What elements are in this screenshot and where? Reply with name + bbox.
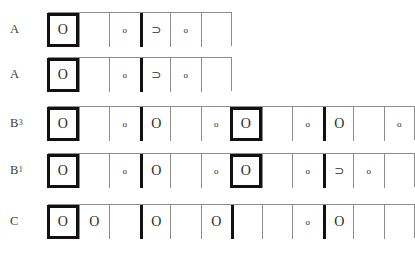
row-label-base: A xyxy=(10,67,19,82)
small-circle-icon: o xyxy=(123,26,128,35)
pattern-cell[interactable] xyxy=(384,154,415,188)
pattern-cell[interactable]: o xyxy=(292,107,323,141)
large-circle-icon: O xyxy=(58,23,68,37)
pattern-cell[interactable]: ⊃ xyxy=(140,13,171,47)
pattern-cell[interactable]: o xyxy=(109,154,140,188)
pattern-cell[interactable]: O xyxy=(201,205,232,239)
row-label-base: C xyxy=(10,214,19,229)
small-circle-icon: o xyxy=(214,167,219,176)
pattern-cell[interactable]: o xyxy=(109,107,140,141)
pattern-cell[interactable]: o xyxy=(109,58,140,92)
small-circle-icon: o xyxy=(184,26,189,35)
pattern-cell[interactable]: o xyxy=(292,205,323,239)
superset-icon: ⊃ xyxy=(334,165,344,177)
large-circle-icon: O xyxy=(151,117,161,131)
small-circle-icon: o xyxy=(306,218,311,227)
small-circle-icon: o xyxy=(214,120,219,129)
pattern-cell[interactable] xyxy=(79,58,110,92)
pattern-cell[interactable] xyxy=(262,205,293,239)
large-circle-icon: O xyxy=(241,117,251,131)
pattern-cell[interactable]: O xyxy=(47,13,79,47)
pattern-cell[interactable]: o xyxy=(292,154,323,188)
pattern-cell[interactable]: O xyxy=(323,107,354,141)
pattern-cell[interactable]: O xyxy=(230,107,262,141)
small-circle-icon: o xyxy=(123,71,128,80)
pattern-cell[interactable] xyxy=(262,107,293,141)
large-circle-icon: O xyxy=(241,164,251,178)
pattern-cell[interactable]: o xyxy=(201,154,232,188)
pattern-cell[interactable] xyxy=(79,13,110,47)
pattern-cell[interactable] xyxy=(170,205,201,239)
row-label-C: C xyxy=(10,204,42,238)
large-circle-icon: O xyxy=(334,117,344,131)
small-circle-icon: o xyxy=(367,167,372,176)
pattern-cell[interactable] xyxy=(231,205,262,239)
row-label-base: B xyxy=(10,163,19,178)
pattern-cell[interactable]: o xyxy=(170,58,201,92)
pattern-cell[interactable]: O xyxy=(47,58,79,92)
pattern-cell[interactable] xyxy=(79,107,110,141)
row-label-A: A xyxy=(10,57,42,91)
pattern-cell[interactable]: O xyxy=(230,154,262,188)
small-circle-icon: o xyxy=(306,167,311,176)
large-circle-icon: O xyxy=(58,164,68,178)
pattern-cell[interactable]: o xyxy=(353,154,384,188)
small-circle-icon: o xyxy=(306,120,311,129)
row-label-base: A xyxy=(10,22,19,37)
pattern-cell[interactable]: O xyxy=(47,107,79,141)
pattern-cell[interactable] xyxy=(201,13,232,47)
pattern-cells: Oo⊃o xyxy=(48,12,232,46)
pattern-cell[interactable]: o xyxy=(170,13,201,47)
pattern-cell[interactable]: O xyxy=(140,205,171,239)
pattern-cell[interactable]: o xyxy=(201,107,232,141)
large-circle-icon: O xyxy=(58,117,68,131)
pattern-cell[interactable]: O xyxy=(323,205,354,239)
small-circle-icon: o xyxy=(123,120,128,129)
pattern-cell[interactable] xyxy=(384,205,415,239)
row-label-B1: B1 xyxy=(10,153,42,187)
pattern-cell[interactable]: O xyxy=(79,205,110,239)
large-circle-icon: O xyxy=(334,215,344,229)
superset-icon: ⊃ xyxy=(151,69,161,81)
pattern-cells: OoOoOo⊃o xyxy=(48,153,415,187)
pattern-cells: OoOoOoOo xyxy=(48,106,415,140)
superset-icon: ⊃ xyxy=(151,24,161,36)
pattern-cell[interactable]: ⊃ xyxy=(323,154,354,188)
pattern-cell[interactable] xyxy=(353,107,384,141)
pattern-cell[interactable]: ⊃ xyxy=(140,58,171,92)
pattern-cell[interactable] xyxy=(170,107,201,141)
large-circle-icon: O xyxy=(89,215,99,229)
large-circle-icon: O xyxy=(58,215,68,229)
pattern-cell[interactable]: O xyxy=(140,154,171,188)
small-circle-icon: o xyxy=(184,71,189,80)
large-circle-icon: O xyxy=(211,215,221,229)
pattern-cell[interactable]: O xyxy=(47,154,79,188)
pattern-cell[interactable] xyxy=(170,154,201,188)
pattern-cells: OOOOoO xyxy=(48,204,415,238)
pattern-cell[interactable]: o xyxy=(109,13,140,47)
large-circle-icon: O xyxy=(151,215,161,229)
row-label-base: B xyxy=(10,116,19,131)
pattern-cell[interactable] xyxy=(353,205,384,239)
pattern-cell[interactable]: o xyxy=(384,107,415,141)
row-label-A: A xyxy=(10,12,42,46)
small-circle-icon: o xyxy=(397,120,402,129)
pattern-cell[interactable]: O xyxy=(140,107,171,141)
pattern-cell[interactable] xyxy=(79,154,110,188)
row-label-B3: B3 xyxy=(10,106,42,140)
pattern-cell[interactable]: O xyxy=(47,205,79,239)
pattern-cell[interactable] xyxy=(109,205,140,239)
rhythm-pattern-sheet: AOo⊃oAOo⊃oB3OoOoOoOoB1OoOoOo⊃oCOOOOoO xyxy=(0,0,415,257)
pattern-cell[interactable] xyxy=(262,154,293,188)
large-circle-icon: O xyxy=(151,164,161,178)
pattern-cells: Oo⊃o xyxy=(48,57,232,91)
small-circle-icon: o xyxy=(123,167,128,176)
pattern-cell[interactable] xyxy=(201,58,232,92)
large-circle-icon: O xyxy=(58,68,68,82)
